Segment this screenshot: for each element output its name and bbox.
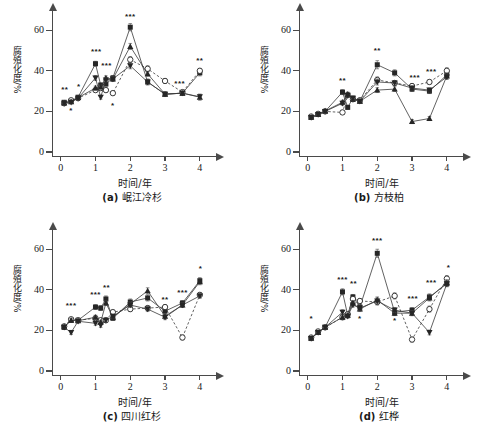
data-point-marker [345,312,351,318]
error-bar [198,293,202,298]
data-point-marker [127,301,133,307]
data-point-marker [93,87,98,92]
error-bar [393,70,397,76]
data-point-marker [145,305,150,310]
data-point-marker [426,295,432,301]
y-tick-label: 60 [0,25,44,35]
x-tick-label: 2 [367,163,387,173]
error-bar [94,88,98,92]
data-point-marker [103,296,108,301]
data-point-marker [350,97,355,102]
y-tick-label: 0 [247,147,291,157]
error-bar [316,113,320,116]
data-point-marker [163,309,168,314]
x-tick [307,156,308,161]
x-axis-line [52,156,218,157]
error-bar [111,75,115,80]
data-point-marker [180,89,185,94]
data-point-marker [197,68,202,73]
series-line [311,253,447,338]
x-axis-label: 时间/年 [299,178,465,189]
error-bar [346,92,350,96]
data-point-marker [322,325,327,330]
y-tick [293,289,299,290]
data-point-marker [444,276,449,281]
data-point-marker [315,330,321,336]
error-bar [346,93,350,97]
error-bar [375,88,379,93]
error-bar [393,81,397,86]
data-point-marker [145,79,150,84]
data-point-marker [75,318,80,323]
data-point-marker [93,305,98,310]
panel-caption: (d) 红桦 [279,411,479,422]
error-bar [62,102,66,105]
y-tick-label: 60 [0,244,44,254]
x-tick [95,156,96,161]
figure-root: 020406001234腐殖化度/%时间/年(a) 岷江冷杉**********… [0,0,494,438]
error-bar [111,315,115,319]
error-bar [393,87,397,92]
error-bar [445,72,449,78]
data-point-marker [162,313,168,319]
data-point-marker [61,101,67,107]
y-tick [46,249,52,250]
error-bar [445,281,449,286]
data-point-marker [426,330,432,336]
data-point-marker [322,324,328,330]
data-point-marker [426,115,432,121]
significance-marker: ** [103,284,110,292]
panel-caption-id: (a) [102,192,121,203]
data-point-marker [409,310,415,316]
panel-caption: (b) 方枝柏 [279,192,479,203]
error-bar [316,331,320,334]
y-tick-label: 20 [247,106,291,116]
error-bar [309,337,313,340]
data-point-marker [76,95,81,100]
x-axis-line [299,156,465,157]
data-point-marker [392,310,398,316]
y-tick-label: 0 [247,366,291,376]
significance-marker: *** [174,80,185,88]
data-point-marker [316,112,321,117]
data-point-marker [345,311,350,316]
error-bar [358,99,362,103]
y-tick-label: 0 [0,366,44,376]
error-bar [351,294,355,299]
data-point-marker [350,300,356,306]
error-bar [351,303,355,307]
error-bar [358,98,362,102]
data-point-marker [98,83,103,88]
data-point-marker [92,321,98,327]
panel-caption-id: (b) [354,192,374,203]
error-bar [410,87,414,92]
data-point-marker [315,329,320,334]
error-bar [111,77,115,82]
data-point-marker [345,105,350,110]
x-tick [95,375,96,380]
y-axis-line [52,229,53,375]
error-bar [146,66,150,72]
data-point-marker [69,318,74,323]
data-point-marker [145,307,151,313]
x-tick [130,156,131,161]
error-bar [99,85,103,89]
error-bar [62,101,66,104]
series-open-circle [61,292,202,340]
x-tick-label: 4 [190,163,210,173]
data-point-marker [92,85,98,91]
error-bar [163,308,167,314]
error-bar [111,314,115,318]
y-axis-line [52,10,53,156]
error-bar [428,295,432,301]
error-bar [309,116,313,119]
x-axis-arrow-icon [216,153,224,161]
error-bar [181,303,185,308]
data-point-marker [75,96,81,102]
x-tick-label: 4 [437,163,457,173]
x-axis-arrow-icon [463,153,471,161]
data-point-marker [92,75,98,81]
significance-marker: ** [350,280,357,288]
y-axis-label: 腐殖化度/% [8,46,22,94]
data-point-marker [426,88,432,94]
